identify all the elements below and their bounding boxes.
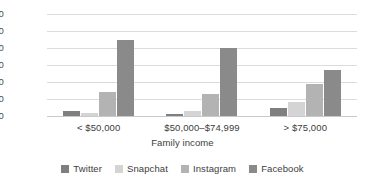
legend-label: Facebook xyxy=(261,164,304,174)
x-axis-tick-label: $50,000–$74,999 xyxy=(150,122,253,133)
bar-snapchat xyxy=(184,111,201,116)
bar-snapchat xyxy=(288,102,305,116)
bar-twitter xyxy=(166,114,183,116)
plot-area xyxy=(47,14,357,116)
legend-item-snapchat[interactable]: Snapchat xyxy=(115,164,168,174)
legend-label: Instagram xyxy=(193,164,236,174)
legend-swatch-icon xyxy=(181,165,189,173)
bar-instagram xyxy=(99,92,116,116)
chart-legend: TwitterSnapchatInstagramFacebook xyxy=(0,164,365,174)
bar-twitter xyxy=(63,111,80,116)
gridline xyxy=(47,116,357,117)
bar-group xyxy=(150,14,253,116)
bar-instagram xyxy=(306,84,323,116)
bar-facebook xyxy=(324,70,341,116)
y-axis-tick-label: 10 xyxy=(0,94,4,104)
legend-item-instagram[interactable]: Instagram xyxy=(181,164,236,174)
y-axis-tick-label: 60 xyxy=(0,9,4,19)
bar-group xyxy=(254,14,357,116)
y-axis-tick-label: 40 xyxy=(0,43,4,53)
y-axis-tick-label: 0 xyxy=(0,111,4,121)
bar-twitter xyxy=(270,108,287,117)
bar-chart: Percentage 0102030405060 < $50,000$50,00… xyxy=(0,0,365,185)
x-axis-tick-label: < $50,000 xyxy=(47,122,150,133)
bar-instagram xyxy=(202,94,219,116)
y-axis-tick-label: 30 xyxy=(0,60,4,70)
legend-swatch-icon xyxy=(249,165,257,173)
legend-item-facebook[interactable]: Facebook xyxy=(249,164,304,174)
x-axis-tick-label: > $75,000 xyxy=(254,122,357,133)
legend-label: Twitter xyxy=(73,164,102,174)
y-axis-tick-label: 50 xyxy=(0,26,4,36)
y-axis-tick-label: 20 xyxy=(0,77,4,87)
bar-snapchat xyxy=(81,113,98,116)
legend-swatch-icon xyxy=(115,165,123,173)
legend-label: Snapchat xyxy=(127,164,168,174)
bar-facebook xyxy=(117,40,134,117)
bar-group xyxy=(47,14,150,116)
legend-item-twitter[interactable]: Twitter xyxy=(61,164,102,174)
bar-facebook xyxy=(220,48,237,116)
x-axis-title: Family income xyxy=(0,137,365,148)
legend-swatch-icon xyxy=(61,165,69,173)
